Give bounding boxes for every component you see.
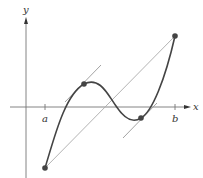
y-axis-arrow-icon xyxy=(24,17,28,24)
secant-line xyxy=(45,36,175,168)
tick-label-b: b xyxy=(172,113,178,124)
tangent-point-2 xyxy=(138,115,144,121)
endpoint-a xyxy=(42,165,48,171)
x-axis-label: x xyxy=(193,101,199,112)
x-axis-arrow-icon xyxy=(184,105,191,109)
mvt-diagram: y x a b xyxy=(0,0,203,178)
axes xyxy=(10,17,191,178)
endpoint-b xyxy=(172,33,178,39)
y-axis-label: y xyxy=(22,4,29,15)
tick-label-a: a xyxy=(42,113,48,124)
tangent-point-1 xyxy=(81,81,87,87)
